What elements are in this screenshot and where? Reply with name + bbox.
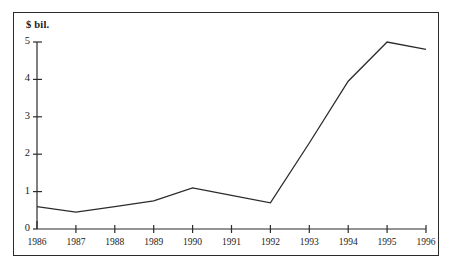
line-chart-svg [14,13,440,257]
y-tick-label: 0 [16,222,30,233]
x-tick-label: 1993 [289,237,329,247]
x-tick-label: 1992 [250,237,290,247]
y-tick-label: 4 [16,72,30,83]
x-tick-label: 1988 [95,237,135,247]
y-tick-label: 3 [16,110,30,121]
y-tick-label: 2 [16,147,30,158]
x-tick-label: 1991 [212,237,252,247]
x-tick-label: 1986 [17,237,57,247]
chart-frame: $ bil. 012345 19861987198819891990199119… [13,12,439,256]
x-tick-label: 1995 [367,237,407,247]
x-tick-label: 1994 [328,237,368,247]
chart-tick-marks [33,42,426,233]
plot-area: $ bil. 012345 19861987198819891990199119… [14,13,438,255]
x-tick-label: 1996 [406,237,446,247]
chart-axes [37,42,426,229]
data-series-line [37,42,426,212]
y-tick-label: 5 [16,35,30,46]
x-tick-label: 1989 [134,237,174,247]
x-tick-label: 1987 [56,237,96,247]
y-tick-label: 1 [16,185,30,196]
x-tick-label: 1990 [173,237,213,247]
